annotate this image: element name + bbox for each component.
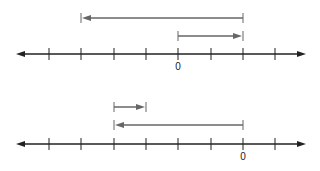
arrowhead-icon <box>82 15 91 21</box>
axis-right-arrowhead-icon <box>297 141 306 147</box>
number-line-2: 0 <box>16 102 306 162</box>
axis-left-arrowhead-icon <box>16 141 25 147</box>
zero-label: 0 <box>175 61 181 72</box>
long-left-arrow <box>114 120 243 130</box>
number-line-1: 0 <box>16 13 306 72</box>
short-right-arrow <box>114 102 146 112</box>
axis-left-arrowhead-icon <box>16 51 25 57</box>
long-left-arrow <box>81 13 243 23</box>
arrowhead-icon <box>233 33 242 39</box>
short-right-arrow <box>178 31 243 41</box>
arrowhead-icon <box>115 122 124 128</box>
zero-label: 0 <box>240 151 246 162</box>
axis-right-arrowhead-icon <box>297 51 306 57</box>
number-line-diagrams: 00 <box>0 0 320 171</box>
arrowhead-icon <box>136 104 145 110</box>
